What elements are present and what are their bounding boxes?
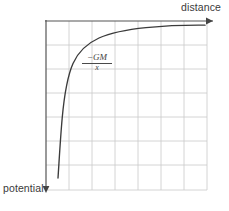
curve-equation-annotation: −GM x xyxy=(82,53,112,72)
x-axis-arrow-icon xyxy=(206,18,213,25)
y-axis-arrow-icon xyxy=(43,186,50,193)
potential-curve xyxy=(58,25,205,178)
equation-numerator: −GM xyxy=(82,53,112,62)
plot-area xyxy=(0,0,229,211)
grid-lines xyxy=(46,21,207,190)
y-axis-label: potential xyxy=(3,182,44,194)
equation-denominator: x xyxy=(82,64,112,72)
potential-vs-distance-figure: distance potential −GM x xyxy=(0,0,229,211)
y-axis xyxy=(43,20,50,193)
x-axis-label: distance xyxy=(181,1,221,13)
x-axis xyxy=(45,18,213,25)
